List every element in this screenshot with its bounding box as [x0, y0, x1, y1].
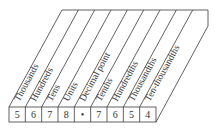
digit: 6	[31, 109, 36, 120]
column-decimal-point: •Decimal point	[74, 10, 127, 122]
digit: 5	[15, 109, 20, 120]
digit: 8	[64, 109, 69, 120]
digit: 5	[129, 109, 134, 120]
digit: 7	[96, 109, 101, 120]
column-label: Tens	[45, 82, 62, 103]
column-label: Units	[61, 80, 80, 103]
digit: 7	[47, 109, 52, 120]
digit: •	[81, 109, 85, 120]
place-value-diagram: 5Thousands6Hundreds7Tens8Units•Decimal p…	[0, 0, 216, 132]
column-tens: 7Tens	[42, 10, 95, 122]
digit: 6	[113, 109, 118, 120]
digit: 4	[145, 109, 150, 120]
column-thousands: 5Thousands	[9, 10, 62, 120]
